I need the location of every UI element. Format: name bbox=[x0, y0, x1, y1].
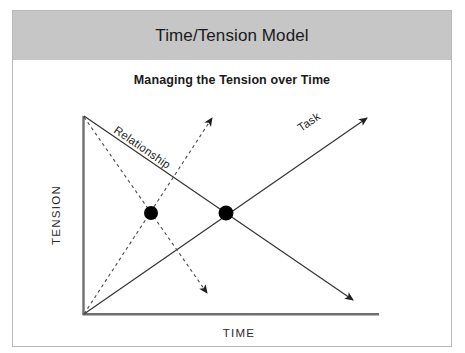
slide-title: Time/Tension Model bbox=[155, 26, 308, 46]
task-label: Task bbox=[295, 110, 322, 134]
time-tension-chart: Relationship Task TIME TENSION bbox=[13, 60, 452, 347]
x-axis-label: TIME bbox=[223, 327, 256, 339]
relationship-label: Relationship bbox=[112, 124, 173, 171]
dashed-crossover-dot bbox=[144, 206, 158, 220]
slide-title-band: Time/Tension Model bbox=[13, 11, 451, 60]
relationship-line bbox=[84, 116, 353, 300]
solid-crossover-dot bbox=[219, 206, 234, 221]
chart-area: Relationship Task TIME TENSION bbox=[13, 60, 452, 347]
y-axis-label: TENSION bbox=[50, 185, 62, 245]
slide-page: Time/Tension Model Managing the Tension … bbox=[12, 10, 452, 347]
